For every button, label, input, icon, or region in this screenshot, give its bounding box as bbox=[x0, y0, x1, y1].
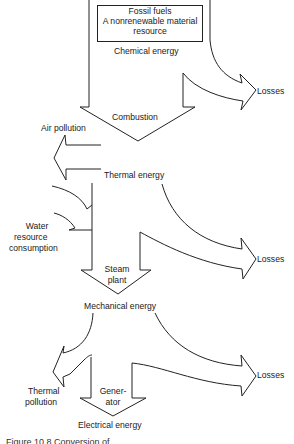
label-steam-plant-1: Steam bbox=[102, 264, 132, 274]
water-inflow-top bbox=[52, 186, 92, 209]
thermal-pollution-arrow bbox=[53, 313, 93, 387]
losses-arrow-2 bbox=[140, 184, 256, 279]
water-inflow-bottom bbox=[54, 213, 92, 230]
energy-flow-diagram: Fossil fuels A nonrenewable material res… bbox=[0, 0, 294, 444]
label-losses-2: Losses bbox=[257, 254, 284, 264]
label-combustion: Combustion bbox=[112, 112, 158, 122]
label-water-3: consumption bbox=[9, 243, 58, 253]
label-steam-plant-2: plant bbox=[102, 275, 132, 285]
label-thermal-energy: Thermal energy bbox=[104, 170, 164, 180]
losses-arrow-3 bbox=[132, 313, 256, 396]
label-mechanical-energy: Mechanical energy bbox=[84, 301, 156, 311]
fossil-fuels-source-box: Fossil fuels A nonrenewable material res… bbox=[97, 5, 203, 42]
label-water-2: resource bbox=[14, 232, 47, 242]
label-thermal-pollution-1: Thermal bbox=[28, 386, 60, 396]
air-pollution-arrow bbox=[54, 135, 101, 180]
label-losses-3: Losses bbox=[257, 370, 284, 380]
label-chemical-energy: Chemical energy bbox=[114, 46, 178, 56]
label-electrical-energy: Electrical energy bbox=[78, 420, 142, 430]
source-line-2: A nonrenewable material bbox=[98, 16, 202, 26]
label-losses-1: Losses bbox=[257, 86, 284, 96]
label-generator-2: ator bbox=[96, 397, 130, 407]
label-generator-1: Gener- bbox=[96, 386, 130, 396]
source-line-3: resource bbox=[98, 26, 202, 36]
label-air-pollution: Air pollution bbox=[41, 123, 86, 133]
figure-caption-clipped: Figure 10.8 Conversion of ... bbox=[6, 437, 120, 444]
source-line-1: Fossil fuels bbox=[98, 6, 202, 16]
label-water-1: Water bbox=[22, 221, 52, 231]
label-thermal-pollution-2: pollution bbox=[25, 397, 57, 407]
